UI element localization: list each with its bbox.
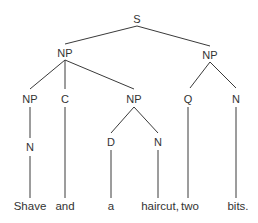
node-s: S [133, 13, 140, 25]
word-two: two [181, 200, 199, 212]
node-np-subject: NP [57, 47, 72, 59]
word-and: and [55, 200, 74, 212]
node-n-haircut: N [154, 136, 162, 148]
node-n-shave: N [26, 141, 34, 153]
node-np-shave: NP [22, 93, 37, 105]
tree-edges [0, 0, 258, 223]
word-shave: Shave [14, 200, 47, 212]
node-d: D [107, 136, 115, 148]
node-q: Q [184, 93, 193, 105]
node-n-bits: N [232, 93, 240, 105]
word-bits: bits. [227, 200, 248, 212]
node-c: C [61, 93, 69, 105]
word-haircut: haircut, [141, 200, 179, 212]
node-np-predicate: NP [202, 49, 217, 61]
syntax-tree-diagram: S NP NP NP C NP Q N N D N Shave and a ha… [0, 0, 258, 223]
word-a: a [108, 200, 114, 212]
node-np-haircut: NP [126, 93, 141, 105]
